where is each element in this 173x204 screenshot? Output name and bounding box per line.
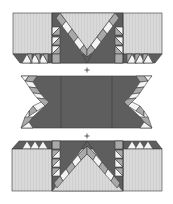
quilt-assembly-diagram	[0, 0, 173, 204]
bottom-section	[12, 141, 162, 191]
top-section	[13, 13, 162, 63]
join-plus-icon	[85, 68, 90, 73]
join-plus-icon	[85, 134, 90, 139]
middle-section	[21, 76, 152, 128]
